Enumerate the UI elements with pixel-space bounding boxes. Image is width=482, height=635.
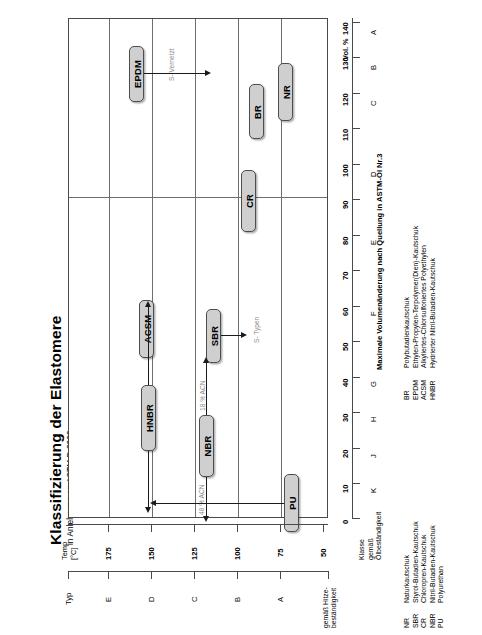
vol-tick-20 xyxy=(352,448,360,449)
typ-axis-note-line2: beständigkeit xyxy=(330,587,338,628)
typ-axis-note-line1: gemäß Hitze- xyxy=(322,587,330,628)
gridline-temp-100 xyxy=(238,19,239,517)
vol-class-b: B xyxy=(369,65,378,70)
vol-label-50: 50 xyxy=(341,343,350,351)
legend-abbr: NBR xyxy=(429,603,438,628)
typ-tick-start xyxy=(68,571,69,579)
legend-item: EPDM Ethylen-Propylen-Terpolymer(Dien)-K… xyxy=(412,226,421,400)
bar-br[interactable]: BR xyxy=(249,84,264,139)
legend-item: BR Polybutadienkautschuk xyxy=(403,226,412,400)
vol-class-h: H xyxy=(369,417,378,422)
annotation-18-acn: 18 % ACN xyxy=(199,381,207,411)
legend-name: Polyurethan xyxy=(437,566,446,603)
arrow-hnbr-line-down xyxy=(148,451,149,508)
vol-class-g: G xyxy=(369,381,378,387)
vol-tick-120 xyxy=(352,93,360,94)
bar-label-acsm: ACSM xyxy=(141,315,152,343)
gridline-temp-125 xyxy=(195,19,196,517)
temp-axis-line xyxy=(68,524,328,525)
vol-label-40: 40 xyxy=(341,379,350,387)
typ-tick-e xyxy=(108,571,109,579)
legend-left: NR Naturkautschuk SBR Styrol-Butadien-Ka… xyxy=(403,521,446,628)
vol-tick-140 xyxy=(352,22,360,23)
legend-abbr: PU xyxy=(437,603,446,628)
bar-epdm[interactable]: EPDM xyxy=(129,46,144,102)
vol-axis-title: Maximale Volumenänderung nach Quellung i… xyxy=(375,154,384,370)
vol-label-100: 100 xyxy=(341,164,350,177)
bar-label-nbr: NBR xyxy=(201,436,212,457)
temp-label-75: 75 xyxy=(276,549,285,557)
bar-nbr[interactable]: NBR xyxy=(199,415,214,477)
legend-item: CR Chloropren-Kautschuk xyxy=(420,521,429,628)
temp-tick-75 xyxy=(280,524,281,532)
klasse-note-line1: Klasse xyxy=(358,512,367,560)
vol-tick-100 xyxy=(352,164,360,165)
gridline-vol-100 xyxy=(69,197,327,198)
bar-sbr[interactable]: CR xyxy=(241,170,256,232)
vol-label-140: 140 xyxy=(341,22,350,35)
vol-tick-70 xyxy=(352,270,360,271)
arrow-hnbr-head-down xyxy=(145,507,151,513)
typ-axis-line xyxy=(68,571,328,572)
vol-class-k: K xyxy=(369,488,378,493)
annotation-48-acn: 48 % ACN xyxy=(198,485,206,515)
legend-abbr: SBR xyxy=(412,603,421,628)
legend-abbr: NR xyxy=(403,603,412,628)
vol-label-30: 30 xyxy=(341,414,350,422)
temp-label-150: 150 xyxy=(147,547,156,560)
typ-tick-c xyxy=(194,571,195,579)
legend-item: HNBR Hydrierter Nitril-Butadien-Kautschu… xyxy=(429,226,438,400)
bar-label-cr: SBR xyxy=(208,326,219,346)
bar-label-pu: PU xyxy=(286,496,297,509)
temp-tick-50 xyxy=(323,524,324,532)
plot-area: EPDM NR BR CR ACSM SBR HNBR NBR xyxy=(68,18,328,518)
typ-tick-a xyxy=(280,571,281,579)
vol-label-70: 70 xyxy=(341,272,350,280)
vol-label-10: 10 xyxy=(341,485,350,493)
legend-item: ACSM Alkyliertes-Chlorsulfoniertes Polye… xyxy=(420,226,429,400)
legend-name: Alkyliertes-Chlorsulfoniertes Polyethyle… xyxy=(420,245,429,368)
typ-label-a: A xyxy=(276,597,285,602)
bar-label-br: BR xyxy=(251,105,262,119)
vol-class-d: D xyxy=(369,172,378,177)
temp-tick-150 xyxy=(151,524,152,532)
legend-name: Naturkautschuk xyxy=(403,555,412,603)
temp-tick-175 xyxy=(108,524,109,532)
vol-tick-130 xyxy=(352,57,360,58)
annotation-s-vernetzt: S- Vernetzt xyxy=(168,48,176,81)
temp-tick-100 xyxy=(237,524,238,532)
vol-label-80: 80 xyxy=(341,237,350,245)
legend-abbr: CR xyxy=(420,603,429,628)
legend-right: BR Polybutadienkautschuk EPDM Ethylen-Pr… xyxy=(403,226,437,400)
vol-label-60: 60 xyxy=(341,308,350,316)
bar-acsm[interactable]: ACSM xyxy=(139,300,154,358)
legend-name: Polybutadienkautschuk xyxy=(403,297,412,368)
bar-label-nr: NR xyxy=(280,85,291,99)
vol-class-a: A xyxy=(369,30,378,35)
temp-label-175: 175 xyxy=(104,547,113,560)
legend-name: Nitril-Butadien-Kautschuk xyxy=(429,525,438,603)
arrow-nbr-head-up xyxy=(203,357,209,363)
annotation-s-typen: S- Typen xyxy=(253,317,261,343)
vol-label-110: 110 xyxy=(341,129,350,141)
bar-nr[interactable]: NR xyxy=(278,63,293,121)
vol-tick-10 xyxy=(352,483,360,484)
typ-axis-note: gemäß Hitze- beständigkeit xyxy=(322,587,338,628)
vol-label-20: 20 xyxy=(341,450,350,458)
gridline-temp-175 xyxy=(109,19,110,517)
vol-class-e: E xyxy=(369,240,378,245)
vol-tick-80 xyxy=(352,235,360,236)
legend-item: NR Naturkautschuk xyxy=(403,521,412,628)
vol-class-f: F xyxy=(369,311,378,316)
arrow-nbr-head-down xyxy=(203,516,209,522)
legend-abbr: ACSM xyxy=(420,368,429,400)
temp-label-125: 125 xyxy=(190,547,199,560)
legend-name: Chloropren-Kautschuk xyxy=(420,534,429,603)
vol-tick-30 xyxy=(352,412,360,413)
bar-hnbr[interactable]: HNBR xyxy=(141,385,156,451)
vol-tick-60 xyxy=(352,306,360,307)
typ-tick-end xyxy=(328,571,329,579)
temp-label-100: 100 xyxy=(233,547,242,560)
chart-figure: Klassifizierung der Elastomere in Anlehn… xyxy=(0,0,482,635)
bar-cr[interactable]: SBR xyxy=(206,309,221,363)
